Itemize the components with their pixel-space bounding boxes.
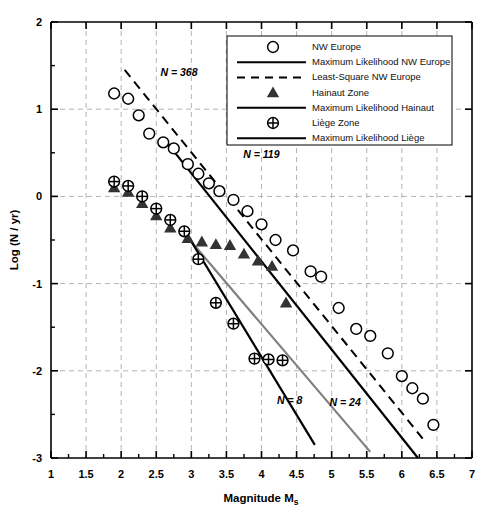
legend-open-circle-icon [268,42,279,53]
marker-filled-triangle [196,236,208,247]
y-axis-title: Log (N / yr) [8,209,20,270]
marker-open-circle [333,303,344,314]
fit-line [167,142,418,458]
y-tick-label: 1 [36,103,42,115]
legend-label: Maximum Likelihood Hainaut [312,102,434,113]
marker-filled-triangle [266,260,278,271]
x-axis-title: Magnitude Ms [223,492,298,507]
x-tick-label: 3 [188,468,194,480]
annotation-label: N = 8 [277,394,303,406]
annotation-label: N = 368 [160,66,197,78]
marker-open-circle [203,178,214,189]
x-tick-label: 2 [118,468,124,480]
marker-open-circle [193,168,204,179]
annotation-label: N = 119 [243,148,279,160]
x-tick-label: 5.5 [359,468,374,480]
marker-open-circle [270,235,281,246]
x-tick-label: 6 [399,468,405,480]
x-tick-label: 4 [258,468,265,480]
x-tick-label: 6.5 [429,468,444,480]
figure-container: 11.522.533.544.555.566.57210-1-2-3 N = 3… [0,0,491,528]
marker-open-circle [288,245,299,256]
marker-open-circle [351,324,362,335]
marker-open-circle [228,194,239,205]
fit-line [191,242,370,452]
x-tick-label: 4.5 [289,468,304,480]
marker-open-circle [428,419,439,430]
marker-open-circle [182,159,193,170]
marker-filled-triangle [224,239,236,250]
legend-label: NW Europe [312,41,361,52]
marker-open-circle [133,110,144,121]
marker-open-circle [242,206,253,217]
marker-open-circle [417,393,428,404]
y-tick-label: -1 [32,278,42,290]
marker-open-circle [382,348,393,359]
marker-open-circle [123,93,134,104]
y-tick-label: 0 [36,190,42,202]
x-tick-label: 1.5 [78,468,93,480]
marker-open-circle [316,271,327,282]
x-tick-label: 2.5 [149,468,164,480]
legend-label: Liège Zone [312,117,360,128]
legend-label: Maximum Likelihood Liège [312,132,424,143]
legend-label: Least-Square NW Europe [312,71,421,82]
legend-label: Maximum Likelihood NW Europe [312,56,450,67]
marker-filled-triangle [210,238,222,249]
annotation-label: N = 24 [330,396,361,408]
marker-open-circle [109,88,120,99]
seismicity-magnitude-frequency-chart: 11.522.533.544.555.566.57210-1-2-3 N = 3… [0,0,491,528]
chart-legend: NW EuropeMaximum Likelihood NW EuropeLea… [227,36,452,145]
legend-label: Hainaut Zone [312,87,369,98]
marker-open-circle [158,137,169,148]
marker-open-circle [305,266,316,277]
marker-open-circle [214,186,225,197]
x-tick-label: 3.5 [219,468,234,480]
x-tick-label: 7 [469,468,475,480]
marker-filled-triangle [238,248,250,259]
marker-open-circle [168,143,179,154]
series-hainaut-zone [108,181,292,307]
marker-open-circle [256,219,267,230]
marker-open-circle [144,128,155,139]
marker-open-circle [407,383,418,394]
y-tick-label: -3 [32,452,42,464]
marker-open-circle [365,331,376,342]
y-tick-label: 2 [36,16,42,28]
marker-open-circle [396,371,407,382]
x-tick-label: 5 [329,468,335,480]
y-tick-label: -2 [32,365,42,377]
marker-filled-triangle [252,255,264,266]
x-tick-label: 1 [48,468,54,480]
